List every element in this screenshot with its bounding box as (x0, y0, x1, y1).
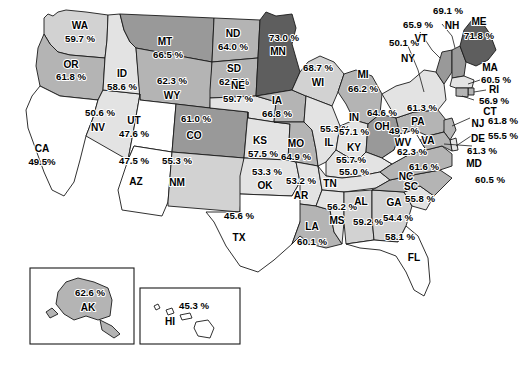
label-KY-abbr: KY (347, 142, 361, 153)
label-MO-abbr: MO (288, 138, 304, 149)
label-AZ-abbr: AZ (129, 176, 142, 187)
label-CA-abbr: CA (35, 143, 50, 154)
label-ID-abbr: ID (117, 68, 127, 79)
label-MN-abbr: MN (270, 46, 286, 57)
label-TN-value: 55.0 % (339, 166, 369, 177)
label-FL-abbr: FL (408, 252, 420, 263)
label-HI-value: 45.3 % (179, 300, 209, 311)
label-TN-abbr: TN (323, 178, 336, 189)
label-NM-abbr: NM (169, 177, 185, 188)
label-IA-abbr: IA (272, 95, 283, 106)
callout-MD-value: 61.3 % (467, 145, 497, 156)
label-ME-abbr: ME (471, 16, 486, 27)
label-NH-value: 69.1 % (433, 5, 463, 16)
label-IN-value: 57.1 % (339, 126, 369, 137)
map-svg: WA 59.7 % OR 61.8 % CA 49.5% 50.6 % NV I… (0, 0, 527, 369)
label-CA-value: 49.5% (28, 156, 56, 167)
leader-nj (452, 118, 470, 126)
label-LA-abbr: LA (305, 221, 319, 232)
state-RI[interactable] (468, 88, 474, 95)
label-MN-value: 73.0 % (269, 32, 299, 43)
label-KY-value: 55.7 % (336, 154, 366, 165)
label-OR-abbr: OR (63, 59, 79, 70)
label-WI-abbr: WI (312, 77, 325, 88)
label-AK-abbr: AK (81, 302, 96, 313)
callout-RI-value: 56.9 % (479, 95, 509, 106)
label-MI-value: 66.2 % (348, 83, 378, 94)
label-WA-value: 59.7 % (65, 33, 95, 44)
label-OK-abbr: OK (257, 180, 273, 191)
label-TX-abbr: TX (233, 232, 246, 243)
label-NY-abbr: NY (401, 53, 415, 64)
label-NC-value: 61.6 % (409, 161, 439, 172)
callout-DC-value: 60.5 % (475, 174, 505, 185)
label-OH-abbr: OH (374, 121, 389, 132)
label-NH-abbr: NH (445, 20, 460, 31)
label-ND-abbr: ND (226, 28, 241, 39)
label-IN-abbr: IN (349, 112, 359, 123)
callout-DE-value: 55.5 % (488, 130, 518, 141)
callout-NJ-value: 61.8 % (488, 115, 518, 126)
label-SD-abbr: SD (227, 63, 241, 74)
callout-RI-abbr: RI (489, 84, 499, 95)
label-IA-value: 66.8 % (262, 108, 292, 119)
label-WY-abbr: WY (164, 90, 181, 101)
label-HI-abbr: HI (165, 316, 175, 327)
label-OH-value: 64.6 % (367, 107, 397, 118)
label-NE-value: 59.7 % (223, 93, 253, 104)
label-UT-abbr: UT (127, 115, 141, 126)
label-VT-value: 65.9 % (403, 19, 433, 30)
leader-ri (474, 90, 486, 92)
label-KS-value: 57.5 % (248, 148, 278, 159)
label-GA-value: 54.4 % (383, 212, 413, 223)
callout-MD-abbr: MD (466, 158, 482, 169)
label-LA-value: 60.1 % (297, 236, 327, 247)
label-WA-abbr: WA (72, 20, 89, 31)
label-AZ-value: 47.5 % (119, 155, 149, 166)
label-VT-abbr: VT (415, 33, 429, 44)
label-PA-value: 61.3 % (407, 102, 437, 113)
state-CT[interactable] (456, 88, 468, 97)
us-choropleth-map: WA 59.7 % OR 61.8 % CA 49.5% 50.6 % NV I… (0, 0, 527, 369)
label-NM-value: 55.3 % (162, 155, 192, 166)
label-MI-abbr: MI (357, 69, 368, 80)
label-WI-value: 68.7 % (303, 62, 333, 73)
label-MT-value: 66.5 % (153, 49, 183, 60)
label-AR-abbr: AR (294, 190, 309, 201)
state-ND[interactable] (212, 18, 260, 62)
label-SC-value: 55.8 % (405, 193, 435, 204)
label-TX-value: 45.6 % (224, 210, 254, 221)
label-AL-value: 59.2 % (353, 216, 383, 227)
label-WY-value: 62.3 % (157, 75, 187, 86)
label-MS-abbr: MS (329, 215, 344, 226)
label-MO-value: 64.9 % (281, 151, 311, 162)
label-MT-abbr: MT (158, 36, 173, 47)
label-IL-abbr: IL (325, 137, 334, 148)
label-AK-value: 62.6 % (75, 287, 105, 298)
label-NC-abbr: NC (399, 171, 414, 182)
label-VA-abbr: VA (421, 135, 435, 146)
label-KS-abbr: KS (253, 135, 267, 146)
label-ME-value: 71.8 % (464, 30, 494, 41)
state-CA[interactable] (26, 86, 98, 196)
label-AL-abbr: AL (354, 196, 367, 207)
label-OK-value: 53.3 % (252, 166, 282, 177)
label-NV-value: 50.6 % (85, 107, 115, 118)
label-OR-value: 61.8 % (56, 71, 86, 82)
callout-DE-abbr: DE (471, 133, 485, 144)
label-ID-value: 58.6 % (107, 81, 137, 92)
label-UT-value: 47.6 % (119, 128, 149, 139)
callout-NJ-abbr: NJ (472, 118, 485, 129)
label-NV-abbr: NV (91, 122, 105, 133)
label-GA-abbr: GA (386, 197, 402, 208)
label-FL-value: 58.1 % (385, 231, 415, 242)
label-MS-value: 56.2 % (327, 201, 357, 212)
callout-MA-abbr: MA (482, 62, 498, 73)
label-PA-abbr: PA (411, 116, 425, 127)
label-CO-abbr: CO (186, 130, 201, 141)
label-WV-abbr: WV (395, 137, 412, 148)
label-ND-value: 64.0 % (218, 41, 248, 52)
label-NE-abbr: NE (231, 80, 245, 91)
state-MA[interactable] (450, 76, 474, 88)
label-SC-abbr: SC (404, 181, 419, 192)
